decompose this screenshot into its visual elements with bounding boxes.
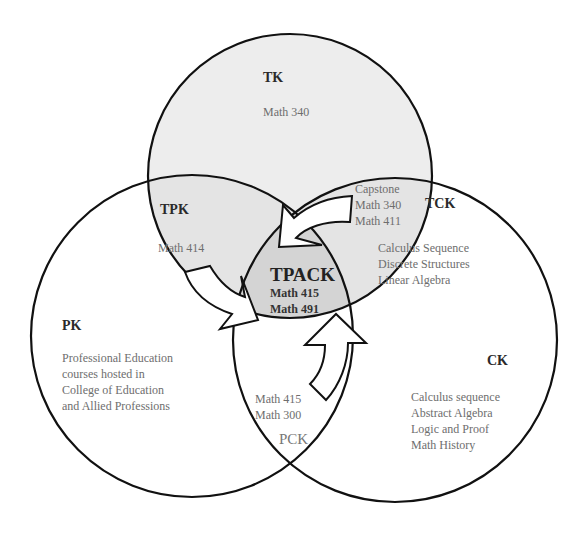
- pk-course-line3: College of Education: [62, 382, 164, 398]
- tpack-course-math491: Math 491: [270, 302, 319, 317]
- tk-course: Math 340: [263, 104, 309, 120]
- tck-course-discrete: Discrete Structures: [378, 256, 470, 272]
- tpack-title: TPACK: [270, 264, 335, 286]
- pk-title: PK: [62, 318, 81, 334]
- tpk-course: Math 414: [158, 240, 204, 256]
- ck-course-logic: Logic and Proof: [411, 421, 489, 437]
- ck-title: CK: [487, 353, 508, 369]
- tck-course-linear: Linear Algebra: [378, 272, 450, 288]
- pk-course-line2: courses hosted in: [62, 366, 145, 382]
- tck-course-capstone: Capstone: [355, 181, 400, 197]
- arrow-from-pck-icon: [305, 314, 366, 400]
- ck-course-algebra: Abstract Algebra: [411, 405, 493, 421]
- pck-title: PCK: [279, 431, 308, 447]
- tck-title: TCK: [425, 196, 455, 212]
- tpk-title: TPK: [160, 202, 189, 218]
- tpack-venn-diagram: TK Math 340 TPK Math 414 Capstone Math 3…: [0, 0, 584, 533]
- tpack-course-math415: Math 415: [270, 286, 319, 301]
- tck-course-math411: Math 411: [355, 213, 401, 229]
- tck-course-calculus: Calculus Sequence: [378, 240, 469, 256]
- tk-title: TK: [263, 70, 283, 86]
- pk-course-line4: and Allied Professions: [62, 398, 170, 414]
- pck-course-math415: Math 415: [255, 391, 301, 407]
- pck-course-math300: Math 300: [255, 407, 301, 423]
- tck-course-math340: Math 340: [355, 197, 401, 213]
- pk-course-line1: Professional Education: [62, 350, 173, 366]
- ck-course-calculus: Calculus sequence: [411, 389, 500, 405]
- ck-course-history: Math History: [411, 437, 475, 453]
